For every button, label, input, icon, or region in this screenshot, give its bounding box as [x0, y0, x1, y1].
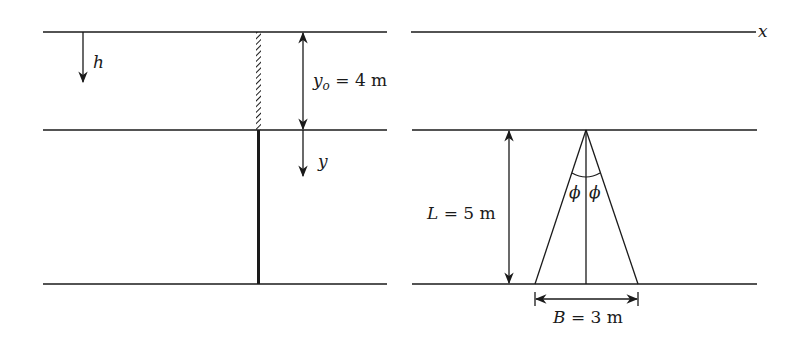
- y-label: y: [317, 151, 328, 171]
- diagram-canvas: h yo = 4 m y x L = 5 m ϕ ϕ: [0, 0, 795, 337]
- B-label: B = 3 m: [552, 307, 623, 327]
- hatched-wall-segment: [256, 32, 261, 130]
- L-label: L = 5 m: [426, 203, 496, 223]
- cone-right-edge: [586, 130, 638, 284]
- phi-left-label: ϕ: [569, 182, 581, 202]
- phi-right-label: ϕ: [589, 182, 601, 202]
- yo-label: yo = 4 m: [312, 70, 387, 93]
- left-panel: h yo = 4 m y: [43, 32, 387, 284]
- h-label: h: [93, 52, 104, 72]
- right-panel: x L = 5 m ϕ ϕ B = 3 m: [411, 21, 768, 327]
- cone-left-edge: [535, 130, 586, 284]
- x-label: x: [758, 21, 768, 41]
